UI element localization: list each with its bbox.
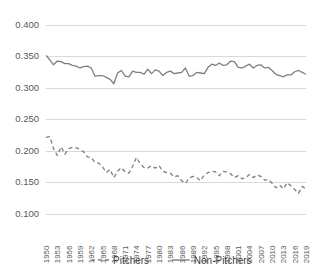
x-tick-label: 1950 xyxy=(42,245,51,263)
y-tick-label: 0.100 xyxy=(15,208,39,219)
legend-label-non-pitchers: Non-Pitchers xyxy=(194,255,252,266)
x-tick-label: 1956 xyxy=(65,245,74,263)
x-tick-label: 2013 xyxy=(279,245,288,263)
x-tick-label: 1953 xyxy=(53,245,62,263)
y-tick-label: 0.350 xyxy=(15,50,39,61)
y-tick-label: 0.150 xyxy=(15,176,39,187)
y-tick-label: 0.200 xyxy=(15,145,39,156)
x-tick-label: 1980 xyxy=(155,245,164,263)
series-line-non-pitchers xyxy=(46,55,306,83)
x-tick-label: 2010 xyxy=(268,245,277,263)
line-chart: 0.1000.1500.2000.2500.3000.3500.400 1950… xyxy=(0,0,321,274)
gridlines-group xyxy=(46,26,306,215)
legend-label-pitchers: Pitchers xyxy=(113,255,149,266)
y-axis-tick-labels: 0.1000.1500.2000.2500.3000.3500.400 xyxy=(15,19,39,219)
data-series-group xyxy=(46,55,306,193)
y-tick-label: 0.250 xyxy=(15,113,39,124)
x-tick-label: 1959 xyxy=(76,245,85,263)
series-line-pitchers xyxy=(46,137,306,194)
x-tick-label: 2019 xyxy=(302,245,311,263)
chart-container: 0.1000.1500.2000.2500.3000.3500.400 1950… xyxy=(0,0,321,274)
y-tick-label: 0.300 xyxy=(15,82,39,93)
x-tick-label: 2016 xyxy=(291,245,300,263)
x-tick-label: 2007 xyxy=(257,245,266,263)
y-tick-label: 0.400 xyxy=(15,19,39,30)
